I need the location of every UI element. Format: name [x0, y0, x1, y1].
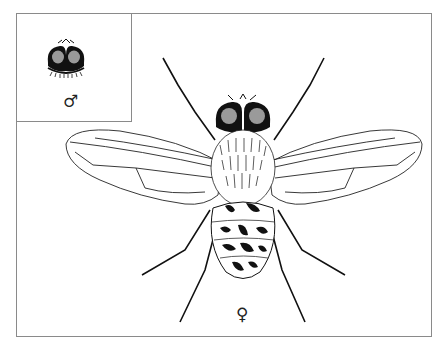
- thorax: [211, 130, 275, 206]
- abdomen: [211, 202, 275, 279]
- left-wing: [66, 130, 222, 204]
- male-head-drawing: [48, 39, 85, 78]
- head-drawing: [216, 94, 270, 132]
- right-wing: [268, 130, 422, 204]
- female-symbol: ♀: [236, 306, 248, 323]
- fly-illustration: [0, 0, 445, 355]
- male-symbol: ♂: [63, 93, 78, 110]
